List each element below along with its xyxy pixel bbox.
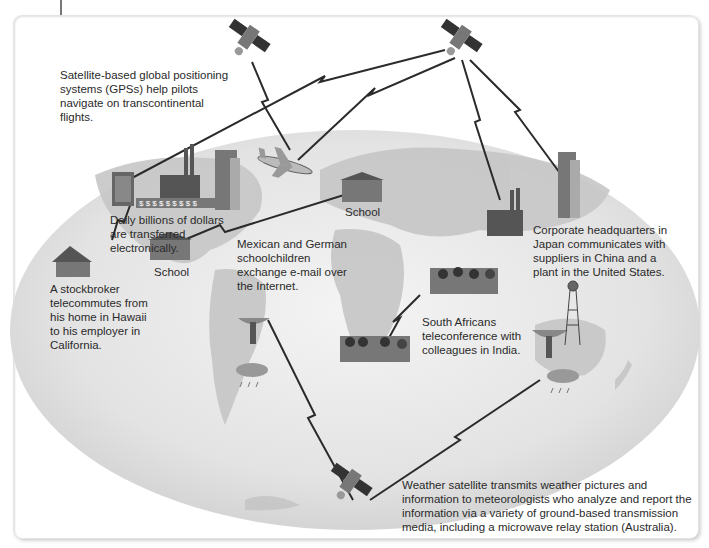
meeting-icon (430, 267, 498, 294)
caption-south-africa: South Africans teleconference with colle… (422, 315, 532, 357)
satellite-icon (431, 16, 485, 67)
satellite-icon (219, 16, 273, 67)
meeting-icon (340, 336, 410, 362)
caption-weather: Weather satellite transmits weather pict… (402, 478, 698, 534)
caption-gps: Satellite-based global positioning syste… (60, 68, 238, 124)
dollar-strip-label: $ $ $ $ $ $ $ $ $ (139, 199, 197, 208)
skyscraper-icon (215, 150, 240, 210)
caption-corporate: Corporate headquarters in Japan communic… (533, 223, 683, 279)
caption-dollars: Daily billions of dollars are transferre… (110, 213, 242, 255)
office-building-icon (112, 172, 134, 206)
label-school-germany: School (345, 206, 380, 218)
label-school-mexico: School (154, 266, 189, 278)
caption-stockbroker: A stockbroker telecommutes from his home… (50, 282, 150, 352)
caption-schoolchildren: Mexican and German schoolchildren exchan… (237, 237, 349, 293)
skyscraper-icon (558, 152, 580, 218)
